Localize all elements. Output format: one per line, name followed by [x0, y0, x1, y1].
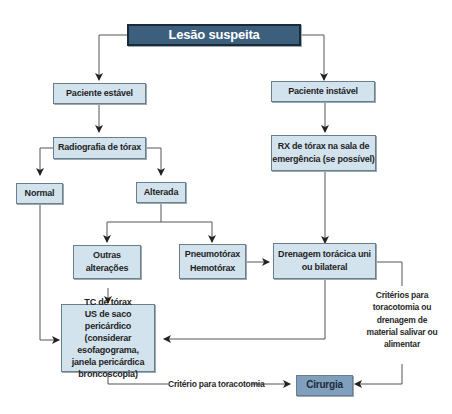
- label-criterio-toracotomia: Critério para toracotomia: [168, 378, 252, 390]
- node-drenagem-line1: Drenagem torácica uni: [278, 248, 371, 261]
- node-rxsala-line2: emergência (se possível): [272, 153, 374, 166]
- node-outras-line1: Outras: [93, 249, 121, 262]
- arrow-lesao-estavel: [99, 35, 127, 80]
- arrow-radiografia-alterada: [145, 148, 161, 175]
- label-criterios-line1: Critérios para: [352, 289, 452, 301]
- node-drenagem-line2: ou bilateral: [302, 261, 348, 274]
- node-paciente-estavel: Paciente estável: [53, 83, 146, 104]
- arrow-criterios-cirurgia: [355, 364, 402, 384]
- label-criterios-line4: material salivar ou: [352, 326, 452, 338]
- arrow-radiografia-normal: [40, 148, 53, 175]
- label-criterio-toracotomia-text: Critério para toracotomia: [168, 379, 265, 389]
- node-outras-alteracoes: Outras alterações: [73, 245, 141, 279]
- node-tc-line3: (considerar esofagograma,: [62, 332, 154, 356]
- arrow-alterada-pneumo: [161, 222, 212, 242]
- node-estavel-label: Paciente estável: [66, 87, 133, 100]
- arrow-alterada-split: [107, 203, 161, 242]
- node-tc-line2: US de saco pericárdico: [62, 308, 154, 332]
- label-criterios: Critérios para toracotomia ou drenagem d…: [352, 289, 452, 351]
- node-radiografia-label: Radiografia de tórax: [58, 141, 141, 154]
- node-tc-torax: TC de tórax US de saco pericárdico (cons…: [61, 304, 155, 372]
- arrow-drenagem-tc: [164, 280, 325, 339]
- node-normal: Normal: [16, 183, 63, 204]
- node-rxsala-line1: RX de tórax na sala de: [278, 140, 370, 153]
- node-alterada-label: Alterada: [144, 186, 178, 199]
- node-tc-line4: janela pericárdica: [72, 356, 144, 368]
- node-radiografia-torax: Radiografia de tórax: [53, 137, 146, 159]
- node-pneumo-line2: Hemotórax: [190, 262, 235, 275]
- node-rx-sala-emergencia: RX de tórax na sala de emergência (se po…: [271, 135, 376, 171]
- node-normal-label: Normal: [25, 187, 55, 200]
- label-criterios-line5: alimentar: [352, 338, 452, 350]
- node-lesao-label: Lesão suspeita: [168, 26, 259, 45]
- node-cirurgia: Cirurgia: [296, 375, 353, 396]
- label-criterios-line3: drenagem de: [352, 314, 452, 326]
- node-pneumotorax-hemotorax: Pneumotórax Hemotórax: [179, 244, 246, 279]
- node-paciente-instavel: Paciente instável: [271, 81, 375, 102]
- node-tc-line1: TC de tórax: [84, 296, 131, 308]
- node-outras-line2: alterações: [86, 262, 129, 275]
- node-pneumo-line1: Pneumotórax: [185, 248, 240, 261]
- line-drenagem-criterios: [376, 262, 402, 286]
- node-cirurgia-label: Cirurgia: [306, 378, 343, 393]
- node-drenagem-toracica: Drenagem torácica uni ou bilateral: [273, 243, 376, 279]
- node-tc-line5: broncoscopia): [78, 368, 137, 380]
- node-instavel-label: Paciente instável: [288, 85, 358, 98]
- arrow-normal-tc: [40, 204, 59, 340]
- label-criterios-line2: toracotomia ou: [352, 301, 452, 313]
- node-lesao-suspeita: Lesão suspeita: [127, 24, 301, 46]
- arrow-lesao-instavel: [301, 35, 324, 80]
- node-alterada: Alterada: [136, 182, 186, 203]
